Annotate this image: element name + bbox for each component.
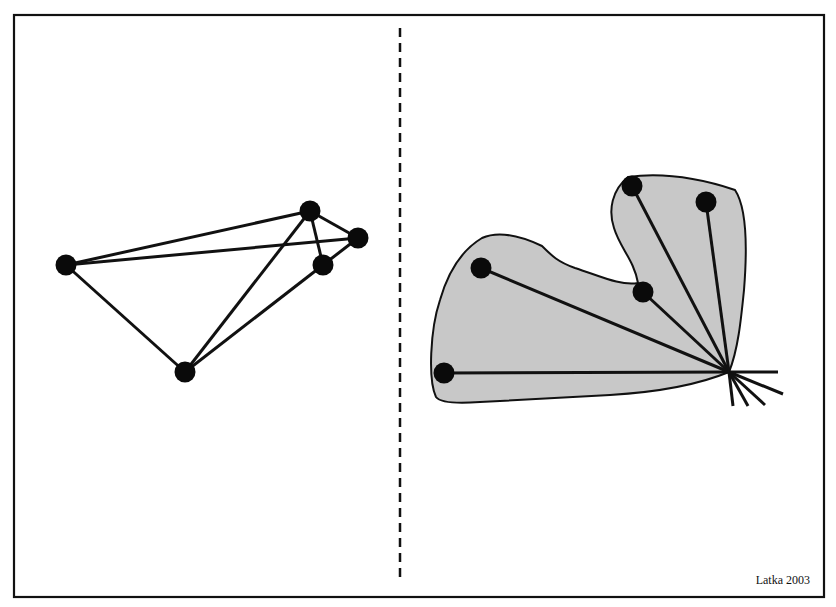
graph-edge xyxy=(66,265,185,372)
hub-spoke xyxy=(729,372,783,394)
region-node xyxy=(622,176,643,197)
hub-spoke xyxy=(444,372,729,373)
graph-node xyxy=(56,255,77,276)
graph-node xyxy=(175,362,196,383)
region-node xyxy=(471,258,492,279)
graph-node xyxy=(313,255,334,276)
region-node xyxy=(434,363,455,384)
graph-node xyxy=(348,228,369,249)
region-node xyxy=(633,282,654,303)
left-network-nodes xyxy=(56,201,369,383)
left-network-graph xyxy=(66,211,358,372)
shaded-region xyxy=(431,175,746,402)
figure-caption: Latka 2003 xyxy=(756,573,810,588)
region-node xyxy=(696,192,717,213)
figure-canvas xyxy=(0,0,836,607)
graph-node xyxy=(300,201,321,222)
hub-spoke xyxy=(729,372,765,405)
